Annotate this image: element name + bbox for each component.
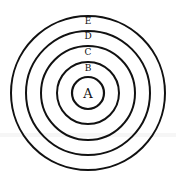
label-c: C — [85, 47, 92, 57]
label-e: E — [85, 16, 92, 26]
label-d: D — [84, 31, 91, 41]
label-a: A — [82, 86, 93, 101]
concentric-circles-diagram: E D C B A — [0, 0, 176, 185]
faint-scan-streak — [0, 133, 176, 137]
label-b: B — [85, 63, 92, 73]
